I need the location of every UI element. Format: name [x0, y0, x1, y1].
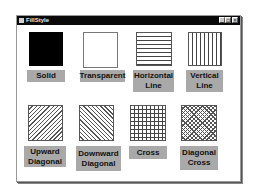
- transparent-label: Transparent: [80, 70, 125, 82]
- horizontal-line-label: Horizontal Line: [133, 70, 174, 92]
- cross-label: Cross: [129, 146, 167, 159]
- downward-diagonal-swatch: [79, 105, 114, 141]
- maximize-button[interactable]: □: [225, 17, 231, 23]
- label-line1: Vertical: [190, 71, 218, 81]
- app-icon[interactable]: [19, 18, 24, 23]
- cross-swatch: [130, 105, 166, 141]
- label-line2: Cross: [188, 158, 211, 168]
- label-line2: Diagonal: [28, 157, 62, 167]
- label-line1: Cross: [137, 148, 160, 158]
- label-line1: Downward: [78, 149, 118, 159]
- upward-diagonal-label: Upward Diagonal: [24, 146, 66, 167]
- title-bar[interactable]: FillStyle _ □ ×: [17, 16, 240, 25]
- upward-diagonal-swatch: [28, 105, 63, 141]
- label-line1: Upward: [30, 147, 59, 157]
- close-button[interactable]: ×: [232, 17, 238, 23]
- solid-label: Solid: [27, 70, 65, 82]
- label-line1: Solid: [36, 71, 56, 81]
- vertical-line-swatch: [188, 32, 222, 66]
- horizontal-line-swatch: [136, 32, 172, 66]
- vertical-line-label: Vertical Line: [186, 70, 223, 92]
- window-title: FillStyle: [26, 16, 49, 25]
- diagonal-cross-swatch: [181, 105, 217, 141]
- label-line2: Diagonal: [82, 159, 116, 169]
- transparent-swatch: [83, 32, 118, 68]
- solid-swatch: [29, 32, 63, 66]
- diagonal-cross-label: Diagonal Cross: [180, 146, 218, 170]
- label-line2: Line: [145, 81, 161, 91]
- label-line2: Line: [196, 81, 212, 91]
- downward-diagonal-label: Downward Diagonal: [76, 146, 121, 171]
- label-line1: Transparent: [80, 71, 126, 81]
- label-line1: Diagonal: [182, 148, 216, 158]
- label-line1: Horizontal: [134, 71, 173, 81]
